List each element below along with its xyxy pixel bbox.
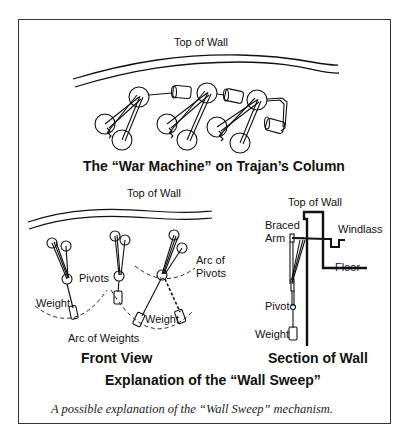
arc-of-pivots-line2: Pivots <box>196 267 226 279</box>
front-view-title: Front View <box>81 350 152 366</box>
section-of-wall-title: Section of Wall <box>268 350 368 366</box>
floor-label: Floor <box>335 261 360 273</box>
arc-of-pivots-label: Arc of Pivots <box>196 254 226 280</box>
arm-label: Arm <box>265 232 285 244</box>
weight-label-right: Weight <box>145 313 179 325</box>
pivot-label: Pivot <box>265 300 289 312</box>
windlass-label: Windlass <box>338 223 383 235</box>
top-of-wall-label-2: Top of Wall <box>127 187 181 199</box>
top-wall-lines <box>73 55 339 87</box>
braced-label: Braced <box>265 219 300 231</box>
front-wall-lines <box>28 209 212 229</box>
top-of-wall-label-1: Top of Wall <box>174 36 228 48</box>
weight-label-left: Weight <box>36 297 70 309</box>
arc-of-pivots-line1: Arc of <box>196 254 225 266</box>
figure-caption: A possible explanation of the “Wall Swee… <box>51 402 333 417</box>
wall-sweep-title: Explanation of the “Wall Sweep” <box>105 372 321 388</box>
pivots-label: Pivots <box>79 272 109 284</box>
section-weight-label: Weight <box>255 328 289 340</box>
top-of-wall-label-3: Top of Wall <box>288 196 342 208</box>
war-machine-drawing <box>95 83 287 153</box>
war-machine-title: The “War Machine” on Trajan’s Column <box>83 158 345 174</box>
arc-of-weights-label: Arc of Weights <box>68 332 139 344</box>
